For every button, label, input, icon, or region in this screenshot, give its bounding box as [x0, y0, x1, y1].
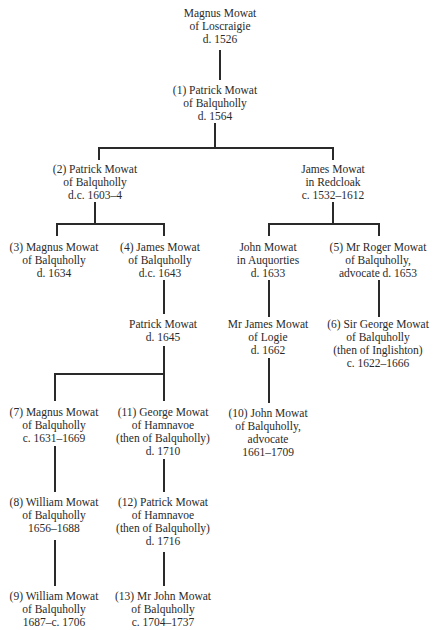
person-name: (2) Patrick Mowat — [53, 163, 137, 176]
connector-line — [378, 223, 380, 236]
person-dates: d. 1564 — [173, 110, 257, 123]
person-dates: d.c. 1603–4 — [53, 189, 137, 202]
connector-line — [332, 147, 334, 160]
person-patrick-mowat-1645: Patrick Mowat d. 1645 — [129, 318, 197, 344]
person-name: (8) William Mowat — [10, 496, 99, 509]
person-james-mowat-logie: Mr James Mowat of Logie d. 1662 — [228, 318, 309, 357]
connector-line — [163, 459, 165, 492]
person-patrick-mowat-12: (12) Patrick Mowat of Hamnavoe (then of … — [116, 496, 210, 548]
person-john-mowat-13: (13) Mr John Mowat of Balquholly c. 1704… — [115, 590, 211, 629]
person-name: John Mowat — [237, 241, 299, 254]
person-george-mowat-11: (11) George Mowat of Hamnavoe (then of B… — [116, 406, 210, 458]
person-name: James Mowat — [301, 163, 365, 176]
person-dates: d. 1645 — [129, 331, 197, 344]
person-place: of Balquholly — [53, 176, 137, 189]
connector-line — [163, 552, 165, 586]
person-dates: c. 1631–1669 — [10, 432, 99, 445]
person-occupation: advocate — [228, 433, 307, 446]
person-dates: d. 1716 — [116, 535, 210, 548]
person-name: Magnus Mowat — [184, 7, 257, 20]
person-place: of Balquholly — [120, 254, 200, 267]
connector-line — [268, 223, 380, 225]
person-name: (1) Patrick Mowat — [173, 84, 257, 97]
connector-line — [54, 540, 56, 586]
person-place-later: (then of Balquholly) — [116, 432, 210, 445]
connector-line — [163, 223, 165, 236]
person-place-later: (then of Balquholly) — [116, 522, 210, 535]
person-name: Mr James Mowat — [228, 318, 309, 331]
person-place: in Auquorties — [237, 254, 299, 267]
person-name: (5) Mr Roger Mowat — [330, 241, 427, 254]
person-dates: 1687–c. 1706 — [10, 616, 99, 629]
person-place: in Redcloak — [301, 176, 365, 189]
person-william-mowat-8: (8) William Mowat of Balquholly 1656–168… — [10, 496, 99, 535]
connector-line — [219, 50, 221, 80]
person-place-later: (then of Inglishton) — [327, 344, 429, 357]
person-dates: d.c. 1643 — [120, 267, 200, 280]
person-name: (4) James Mowat — [120, 241, 200, 254]
connector-line — [54, 446, 56, 492]
person-place: of Balquholly — [10, 603, 99, 616]
connector-line — [214, 123, 216, 148]
person-dates: 1656–1688 — [10, 522, 99, 535]
connector-line — [98, 147, 334, 149]
connector-line — [268, 358, 270, 403]
person-name: (9) William Mowat — [10, 590, 99, 603]
person-place: of Hamnavoe — [116, 509, 210, 522]
connector-line — [163, 373, 165, 401]
connector-line — [332, 202, 334, 224]
person-dates: d. 1526 — [184, 33, 257, 46]
person-george-mowat-6: (6) Sir George Mowat of Balquholly (then… — [327, 318, 429, 370]
person-place: of Balquholly — [10, 419, 99, 432]
person-magnus-mowat-7: (7) Magnus Mowat of Balquholly c. 1631–1… — [10, 406, 99, 445]
person-name: (13) Mr John Mowat — [115, 590, 211, 603]
connector-line — [163, 346, 165, 374]
person-name: Patrick Mowat — [129, 318, 197, 331]
person-dates: c. 1704–1737 — [115, 616, 211, 629]
person-place: of Balquholly, — [228, 420, 307, 433]
connector-line — [378, 280, 380, 317]
person-john-mowat-auquorties: John Mowat in Auquorties d. 1633 — [237, 241, 299, 280]
person-patrick-mowat-2: (2) Patrick Mowat of Balquholly d.c. 160… — [53, 163, 137, 202]
person-dates: c. 1622–1666 — [327, 357, 429, 370]
person-place: of Balquholly — [327, 331, 429, 344]
connector-line — [54, 373, 165, 375]
person-place: of Balquholly — [10, 254, 99, 267]
connector-line — [56, 223, 58, 236]
person-dates: d. 1633 — [237, 267, 299, 280]
person-magnus-mowat-loscraigie: Magnus Mowat of Loscraigie d. 1526 — [184, 7, 257, 46]
person-dates: advocate d. 1653 — [330, 267, 427, 280]
person-dates: d. 1710 — [116, 445, 210, 458]
person-james-mowat-4: (4) James Mowat of Balquholly d.c. 1643 — [120, 241, 200, 280]
person-name: (12) Patrick Mowat — [116, 496, 210, 509]
connector-line — [56, 223, 165, 225]
person-place: of Balquholly — [173, 97, 257, 110]
connector-line — [163, 280, 165, 314]
person-dates: c. 1532–1612 — [301, 189, 365, 202]
person-place: of Hamnavoe — [116, 419, 210, 432]
person-dates: d. 1634 — [10, 267, 99, 280]
person-place: of Loscraigie — [184, 20, 257, 33]
person-place: of Balquholly, — [330, 254, 427, 267]
person-name: (6) Sir George Mowat — [327, 318, 429, 331]
person-place: of Balquholly — [115, 603, 211, 616]
person-name: (3) Magnus Mowat — [10, 241, 99, 254]
person-dates: d. 1662 — [228, 344, 309, 357]
person-william-mowat-9: (9) William Mowat of Balquholly 1687–c. … — [10, 590, 99, 629]
person-place: of Balquholly — [10, 509, 99, 522]
person-name: (10) John Mowat — [228, 407, 307, 420]
person-magnus-mowat-3: (3) Magnus Mowat of Balquholly d. 1634 — [10, 241, 99, 280]
person-dates: 1661–1709 — [228, 446, 307, 459]
person-place: of Logie — [228, 331, 309, 344]
connector-line — [54, 373, 56, 401]
connector-line — [94, 202, 96, 224]
connector-line — [268, 223, 270, 236]
person-name: (11) George Mowat — [116, 406, 210, 419]
person-name: (7) Magnus Mowat — [10, 406, 99, 419]
person-john-mowat-10: (10) John Mowat of Balquholly, advocate … — [228, 407, 307, 459]
person-patrick-mowat-1: (1) Patrick Mowat of Balquholly d. 1564 — [173, 84, 257, 123]
person-james-mowat-redcloak: James Mowat in Redcloak c. 1532–1612 — [301, 163, 365, 202]
person-roger-mowat-5: (5) Mr Roger Mowat of Balquholly, advoca… — [330, 241, 427, 280]
connector-line — [268, 280, 270, 317]
connector-line — [98, 147, 100, 160]
